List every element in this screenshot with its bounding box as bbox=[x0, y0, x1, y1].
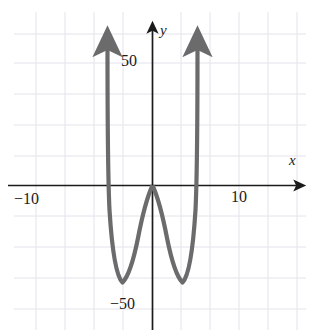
x-tick-label-10: 10 bbox=[231, 188, 247, 206]
graph-figure: y x 50 −50 −10 10 bbox=[0, 0, 314, 334]
x-axis-label: x bbox=[289, 152, 296, 169]
y-tick-label-50: 50 bbox=[121, 52, 137, 70]
grid-lines bbox=[14, 12, 306, 330]
y-tick-label-negative-50: −50 bbox=[110, 295, 135, 313]
y-axis-label: y bbox=[160, 22, 167, 39]
x-tick-label-negative-10: −10 bbox=[14, 190, 39, 208]
coordinate-plane bbox=[0, 0, 314, 334]
